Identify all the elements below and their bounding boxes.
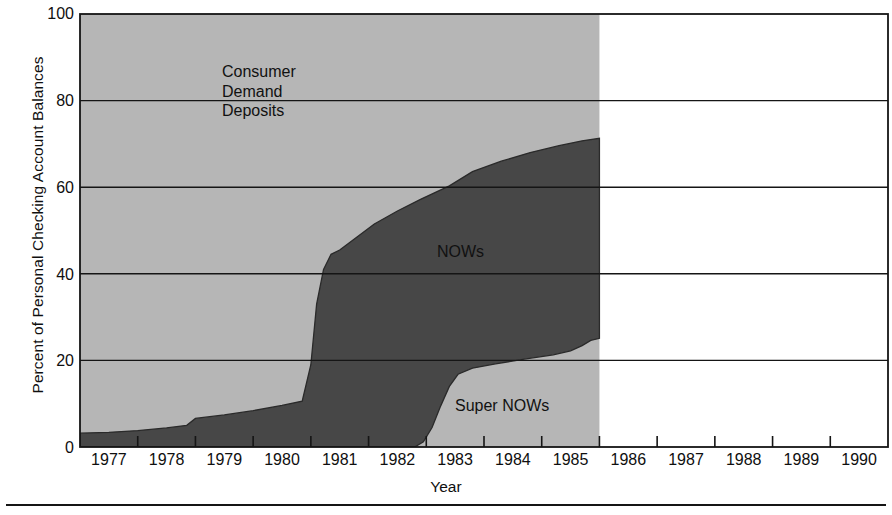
x-tick-label-1990: 1990 (824, 452, 892, 468)
chart-figure: Percent of Personal Checking Account Bal… (0, 0, 892, 515)
annotation-cdd-line-2: Demand (222, 82, 296, 102)
annotation-super-nows: Super NOWs (455, 396, 549, 416)
annotation-cdd-line-1: Consumer (222, 62, 296, 82)
annotation-cdd-line-3: Deposits (222, 101, 296, 121)
x-axis-label: Year (0, 478, 892, 496)
footer-rule (6, 504, 886, 506)
annotation-consumer-demand-deposits: Consumer Demand Deposits (222, 62, 296, 121)
annotation-nows: NOWs (437, 242, 484, 262)
